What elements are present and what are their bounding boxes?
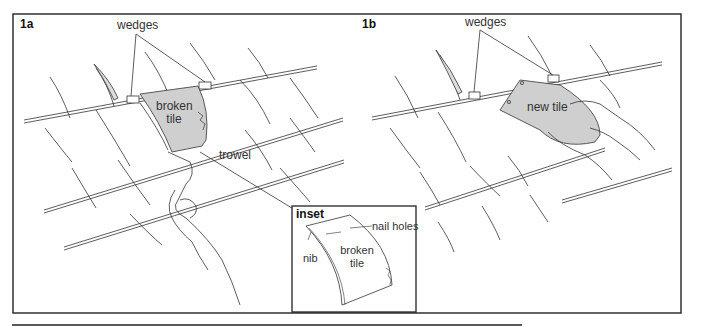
- panel-1b-label: 1b: [362, 17, 376, 31]
- nail-holes-label: nail holes: [372, 220, 418, 233]
- inset-title: inset: [296, 208, 324, 221]
- trowel-label: trowel: [219, 149, 251, 162]
- roof-tile-repair-diagram: 1a 1b wedges broken tile trowel wedges n…: [0, 0, 712, 327]
- panel-1a-label: 1a: [20, 17, 33, 31]
- diagram-artwork: [0, 0, 712, 327]
- inset-broken-line2: tile: [338, 257, 376, 270]
- wedges-label-1a: wedges: [117, 19, 158, 32]
- broken-tile-label-1a: broken tile: [156, 100, 192, 126]
- wedges-label-1b: wedges: [465, 16, 506, 29]
- broken-tile-line2: tile: [156, 113, 192, 126]
- inset-broken-line1: broken: [338, 244, 376, 257]
- nib-label: nib: [303, 252, 318, 265]
- panel-1b-artwork: [372, 30, 672, 252]
- inset-broken-tile-label: broken tile: [338, 244, 376, 270]
- new-tile-label: new tile: [527, 101, 568, 114]
